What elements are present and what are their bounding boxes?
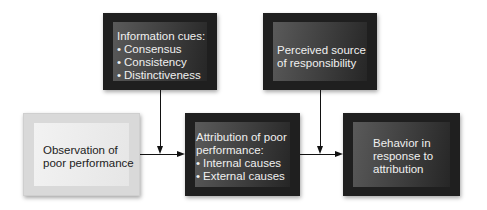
edge-observation-attribution — [140, 154, 178, 155]
node-attribution: Attribution of poor performance: Interna… — [185, 113, 300, 196]
node-title: Information cues: — [117, 30, 217, 43]
arrowhead-down-icon — [157, 146, 163, 154]
node-line: Attribution of poor — [196, 131, 300, 144]
node-line: Behavior in — [373, 137, 460, 150]
node-line: performance: — [196, 144, 300, 157]
edge-information-cues-attribution — [160, 90, 161, 147]
bullet-consistency: Consistency — [117, 56, 217, 69]
node-information-cues: Information cues: Consensus Consistency … — [103, 13, 217, 90]
arrowhead-down-icon — [317, 146, 323, 154]
node-behavior: Behavior in response to attribution — [343, 113, 460, 196]
arrowhead-right-icon — [177, 151, 185, 157]
node-line: response to — [373, 150, 460, 163]
edge-attribution-behavior — [300, 154, 336, 155]
bullet-external-causes: External causes — [196, 170, 300, 183]
node-observation: Observation of poor performance — [23, 113, 140, 196]
bullet-distinctiveness: Distinctiveness — [117, 69, 217, 82]
node-line: Observation of — [43, 144, 139, 157]
bullet-internal-causes: Internal causes — [196, 157, 300, 170]
node-perceived-source: Perceived source of responsibility — [263, 13, 377, 90]
bullet-consensus: Consensus — [117, 43, 217, 56]
node-line: attribution — [373, 163, 460, 176]
node-line: poor performance — [43, 157, 139, 170]
node-line: Perceived source — [277, 44, 377, 57]
node-line: of responsibility — [277, 57, 377, 70]
arrowhead-right-icon — [335, 151, 343, 157]
edge-perceived-source-behavior — [320, 90, 321, 147]
